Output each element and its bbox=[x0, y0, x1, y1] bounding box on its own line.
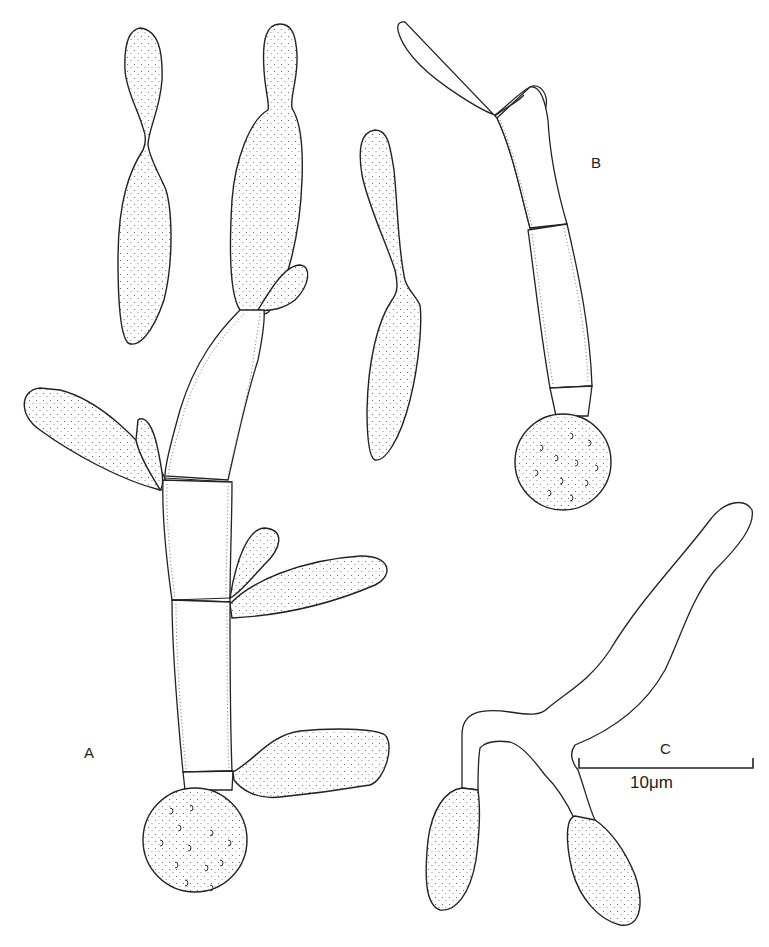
panel-label-b: B bbox=[591, 154, 601, 171]
panel-label-a: A bbox=[84, 744, 94, 761]
panel-b-germinating-spore bbox=[398, 22, 611, 510]
scale-bar-label: 10μm bbox=[630, 773, 673, 793]
figure-canvas bbox=[0, 0, 769, 947]
panel-label-c: C bbox=[660, 740, 671, 757]
panel-c-branched-hypha bbox=[426, 503, 753, 926]
panel-a-conidiophore bbox=[24, 24, 389, 892]
scale-bar bbox=[579, 758, 753, 768]
free-conidium-1 bbox=[118, 28, 171, 344]
free-conidium-2 bbox=[360, 130, 420, 460]
